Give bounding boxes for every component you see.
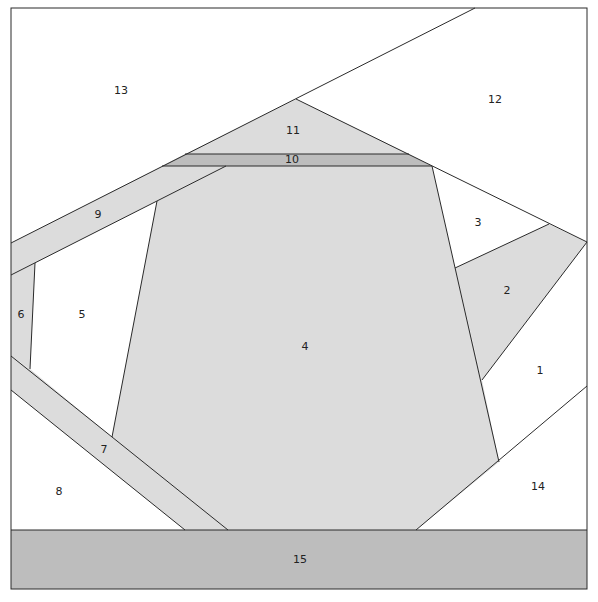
label-3: 3 [475, 216, 482, 229]
label-11: 11 [286, 124, 300, 137]
label-9: 9 [95, 208, 102, 221]
label-10: 10 [285, 153, 299, 166]
label-8: 8 [56, 485, 63, 498]
teapot-pattern-diagram: 1 2 3 4 5 6 7 8 9 10 11 12 13 14 15 [0, 0, 598, 602]
label-5: 5 [79, 308, 86, 321]
label-14: 14 [531, 480, 545, 493]
label-2: 2 [504, 284, 511, 297]
label-1: 1 [537, 364, 544, 377]
label-6: 6 [18, 308, 25, 321]
label-13: 13 [114, 84, 128, 97]
label-4: 4 [302, 340, 309, 353]
label-12: 12 [488, 93, 502, 106]
label-7: 7 [101, 443, 108, 456]
label-15: 15 [293, 553, 307, 566]
